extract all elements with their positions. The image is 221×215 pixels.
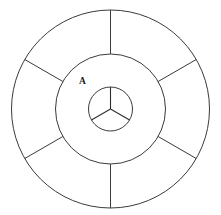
concentric-circle-diagram: A	[0, 0, 221, 215]
inner-spoke-210	[91, 109, 110, 120]
figure-canvas: A	[0, 0, 221, 215]
outer-divider-30	[158, 60, 196, 82]
region-label-a: A	[79, 76, 86, 86]
outer-divider-150	[25, 60, 63, 82]
outer-divider-210	[25, 137, 63, 159]
outer-divider-330	[158, 137, 196, 159]
inner-spoke-330	[111, 109, 130, 120]
